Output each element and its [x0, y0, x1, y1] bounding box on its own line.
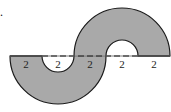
- s-shape-diagram: 2 2 2 2 2: [0, 0, 171, 112]
- segment-label-2: 2: [55, 58, 61, 70]
- segment-label-3: 2: [87, 58, 93, 70]
- segment-label-5: 2: [151, 58, 157, 70]
- segment-label-4: 2: [119, 58, 125, 70]
- upper-half-annulus: [74, 8, 170, 56]
- segment-label-1: 2: [23, 58, 29, 70]
